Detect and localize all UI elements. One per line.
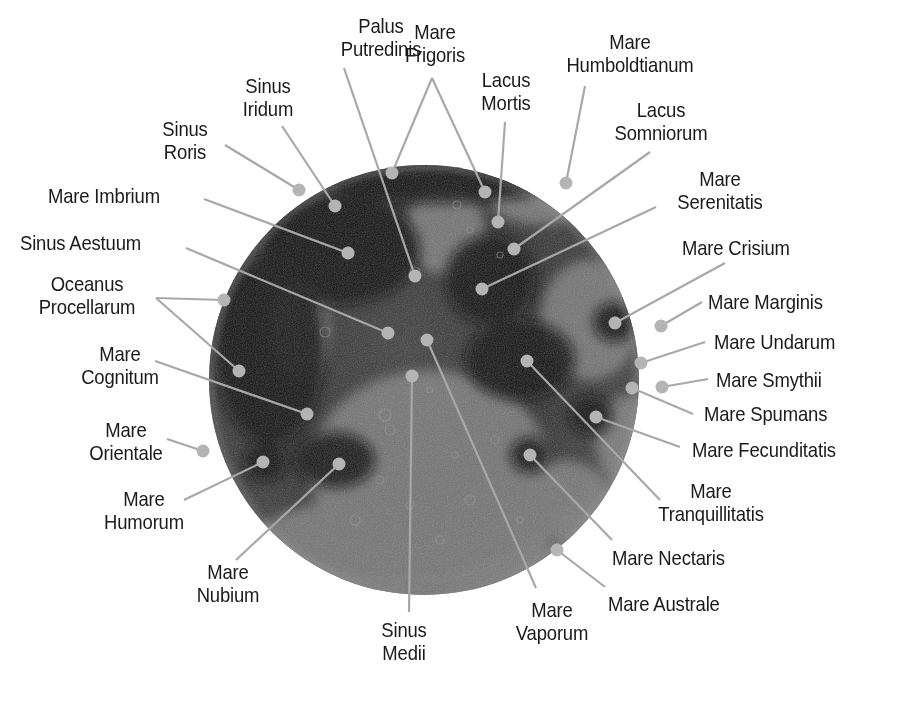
marker-dot-lacus-somniorum bbox=[508, 243, 521, 256]
marker-dot-palus-putredinis bbox=[409, 270, 422, 283]
leader-line-mare-marginis bbox=[661, 302, 702, 326]
marker-dot-sinus-iridum bbox=[329, 200, 342, 213]
label-mare-vaporum: Mare Vaporum bbox=[508, 598, 596, 644]
leader-line-mare-australe bbox=[557, 550, 605, 587]
marker-dot-mare-australe bbox=[551, 544, 564, 557]
marker-dot-mare-humorum bbox=[257, 456, 270, 469]
label-mare-nubium: Mare Nubium bbox=[186, 560, 270, 606]
label-mare-nectaris: Mare Nectaris bbox=[612, 546, 753, 569]
moon-maria-diagram: Palus PutredinisMare FrigorisSinus Iridu… bbox=[0, 0, 906, 706]
label-sinus-roris: Sinus Roris bbox=[154, 117, 216, 163]
label-mare-humorum: Mare Humorum bbox=[96, 487, 191, 533]
label-mare-cognitum: Mare Cognitum bbox=[72, 342, 167, 388]
marker-dot-sinus-medii bbox=[406, 370, 419, 383]
marker-dot-mare-nubium bbox=[333, 458, 346, 471]
label-sinus-medii: Sinus Medii bbox=[369, 618, 439, 664]
label-mare-smythii: Mare Smythii bbox=[716, 368, 857, 391]
label-mare-australe: Mare Australe bbox=[608, 592, 749, 615]
marker-dot-mare-imbrium bbox=[342, 247, 355, 260]
marker-dot-mare-undarum bbox=[635, 357, 648, 370]
label-sinus-aestuum: Sinus Aestuum bbox=[20, 231, 178, 254]
marker-dot-mare-nectaris bbox=[524, 449, 537, 462]
marker-dot-mare-orientale bbox=[197, 445, 210, 458]
label-oceanus-procellarum: Oceanus Procellarum bbox=[23, 272, 151, 318]
label-mare-tranquillitatis: Mare Tranquillitatis bbox=[645, 479, 777, 525]
marker-dot-sinus-roris bbox=[293, 184, 306, 197]
marker-dot-mare-serenitatis bbox=[476, 283, 489, 296]
label-mare-imbrium: Mare Imbrium bbox=[48, 184, 189, 207]
marker-dot-mare-fecunditatis bbox=[590, 411, 603, 424]
marker-dot-mare-humboldtianum bbox=[560, 177, 573, 190]
marker-dot-mare-frigoris bbox=[479, 186, 492, 199]
marker-dot-lacus-mortis bbox=[492, 216, 505, 229]
label-mare-marginis: Mare Marginis bbox=[708, 290, 849, 313]
marker-dot-mare-spumans bbox=[626, 382, 639, 395]
leader-line-mare-smythii bbox=[662, 379, 708, 387]
marker-dot-mare-vaporum bbox=[421, 334, 434, 347]
marker-dot-mare-crisium bbox=[609, 317, 622, 330]
label-mare-spumans: Mare Spumans bbox=[704, 402, 854, 425]
leader-line-mare-humboldtianum bbox=[566, 86, 585, 183]
label-lacus-mortis: Lacus Mortis bbox=[473, 68, 540, 114]
label-sinus-iridum: Sinus Iridum bbox=[235, 74, 302, 120]
leader-line-mare-undarum bbox=[641, 342, 705, 363]
label-mare-orientale: Mare Orientale bbox=[82, 418, 170, 464]
marker-dot-mare-frigoris bbox=[386, 167, 399, 180]
marker-dot-mare-marginis bbox=[655, 320, 668, 333]
leader-line-sinus-roris bbox=[225, 145, 299, 190]
label-lacus-somniorum: Lacus Somniorum bbox=[604, 98, 718, 144]
label-mare-undarum: Mare Undarum bbox=[714, 330, 864, 353]
label-mare-serenitatis: Mare Serenitatis bbox=[667, 167, 773, 213]
moon-disc bbox=[200, 160, 665, 600]
label-mare-fecunditatis: Mare Fecunditatis bbox=[692, 438, 868, 461]
leader-line-mare-frigoris bbox=[392, 78, 432, 173]
marker-dot-sinus-aestuum bbox=[382, 327, 395, 340]
marker-dot-oceanus-procellarum bbox=[233, 365, 246, 378]
label-mare-frigoris: Mare Frigoris bbox=[395, 20, 474, 66]
marker-dot-oceanus-procellarum bbox=[218, 294, 231, 307]
marker-dot-mare-tranquillitatis bbox=[521, 355, 534, 368]
leader-line-sinus-iridum bbox=[282, 126, 335, 206]
leader-line-oceanus-procellarum bbox=[156, 298, 224, 300]
label-mare-humboldtianum: Mare Humboldtianum bbox=[560, 30, 701, 76]
marker-dot-mare-cognitum bbox=[301, 408, 314, 421]
marker-dot-mare-smythii bbox=[656, 381, 669, 394]
label-mare-crisium: Mare Crisium bbox=[682, 236, 814, 259]
